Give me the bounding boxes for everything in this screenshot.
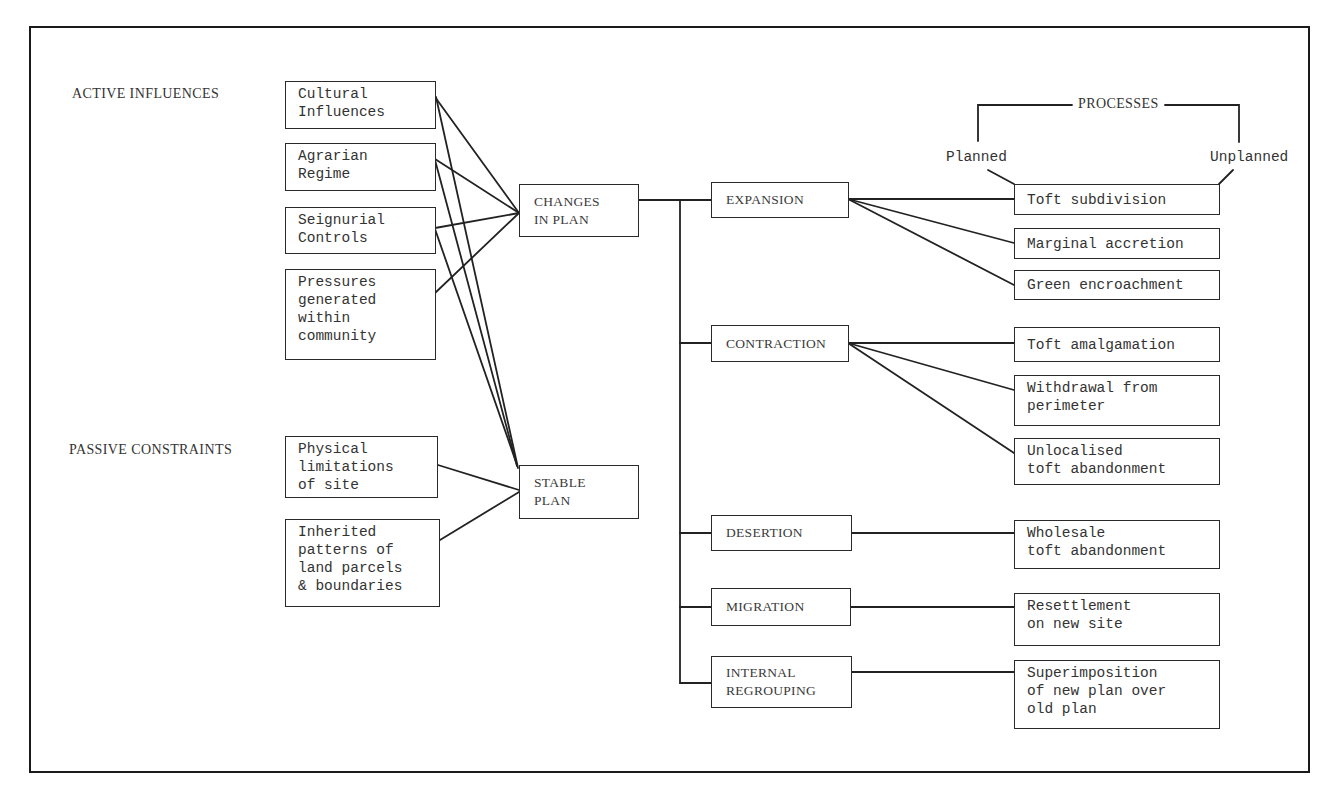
box-withdrawal-from-perimeter: Withdrawal from perimeter <box>1014 375 1220 426</box>
line-contraction-withdrawal <box>848 343 1014 390</box>
box-contraction: CONTRACTION <box>711 325 849 362</box>
box-superimposition: Superimposition of new plan over old pla… <box>1014 660 1220 729</box>
planned-pointer <box>988 170 1014 184</box>
line-expansion-green <box>848 199 1014 285</box>
box-toft-subdivision: Toft subdivision <box>1014 184 1220 215</box>
box-toft-amalgamation: Toft amalgamation <box>1014 327 1220 362</box>
processes-bracket-left <box>978 105 1072 141</box>
box-resettlement: Resettlement on new site <box>1014 593 1220 646</box>
line-agrarian-stable <box>435 160 517 466</box>
box-inherited-patterns: Inherited patterns of land parcels & bou… <box>285 519 440 607</box>
box-agrarian-regime: Agrarian Regime <box>285 143 436 191</box>
line-inherited-stable <box>440 492 519 540</box>
box-physical-limitations: Physical limitations of site <box>285 436 438 498</box>
line-contraction-unlocalised <box>848 343 1014 453</box>
passive-constraints-label: PASSIVE CONSTRAINTS <box>69 442 232 458</box>
line-seigniorial-stable <box>435 229 517 465</box>
box-unlocalised-toft-abandonment: Unlocalised toft abandonment <box>1014 438 1220 485</box>
box-seigniorial-controls: Seignurial Controls <box>285 207 436 254</box>
unplanned-label: Unplanned <box>1210 149 1288 165</box>
line-cultural-stable <box>436 97 518 468</box>
planned-label: Planned <box>946 149 1007 165</box>
box-wholesale-toft-abandonment: Wholesale toft abandonment <box>1014 520 1220 569</box>
line-physical-stable <box>438 465 519 490</box>
box-migration: MIGRATION <box>711 588 851 626</box>
processes-bracket-right <box>1165 105 1239 142</box>
box-green-encroachment: Green encroachment <box>1014 270 1220 300</box>
line-cultural-changes <box>435 97 519 213</box>
line-expansion-marginal <box>848 199 1014 243</box>
box-pressures: Pressures generated within community <box>285 269 436 360</box>
processes-title: PROCESSES <box>1078 96 1159 112</box>
box-expansion: EXPANSION <box>711 182 849 218</box>
unplanned-pointer <box>1219 170 1233 184</box>
box-internal-regrouping: INTERNAL REGROUPING <box>711 656 852 708</box>
box-marginal-accretion: Marginal accretion <box>1014 228 1220 259</box>
box-cultural-influences: Cultural Influences <box>285 81 436 129</box>
box-desertion: DESERTION <box>711 515 852 551</box>
active-influences-label: ACTIVE INFLUENCES <box>72 86 219 102</box>
box-changes-in-plan: CHANGES IN PLAN <box>519 184 639 237</box>
box-stable-plan: STABLE PLAN <box>519 465 639 519</box>
